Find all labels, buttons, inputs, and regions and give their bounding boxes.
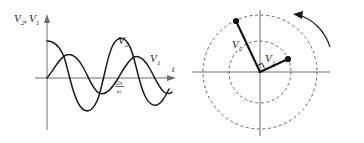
curve-label-v1-sub: 1 [157,59,161,67]
curve-label-v2-sub: 2 [125,41,129,49]
phasor-label-v1-sub: 1 [272,59,276,67]
curve-label-v2: V 2 [118,34,129,49]
waveform-curve-v2 [47,38,169,111]
phasor-v1-tip-dot [285,56,291,62]
y-axis-label-v1-sub: 1 [36,19,40,27]
rotation-arrow-arc [298,15,330,47]
rotation-arrow-icon [293,11,330,47]
phasor-label-v2: V 2 [232,38,243,53]
phasor-label-v2-sub: 2 [239,45,243,53]
period-numerator: 2π [116,79,123,86]
x-axis-arrowhead [167,75,176,81]
y-axis-arrowhead [44,14,50,23]
y-axis-label: V 2 , V 1 [14,12,40,27]
phasor-diagram: V 2 V 1 [182,0,364,143]
x-axis-label-t: t [172,64,175,74]
period-denominator: ω [117,87,122,94]
figure-root: V 2 , V 1 t V 2 V 1 2π ω [0,0,364,143]
waveform-plot: V 2 , V 1 t V 2 V 1 2π ω [0,0,182,143]
period-annotation: 2π ω [115,79,124,94]
rotation-arrow-head [293,11,303,19]
phasor-label-v1: V 1 [265,52,276,67]
phasor-v2-tip-dot [233,18,239,24]
y-axis-label-comma: , [24,12,27,24]
curve-label-v1: V 1 [150,52,161,67]
y-axis [44,14,50,130]
